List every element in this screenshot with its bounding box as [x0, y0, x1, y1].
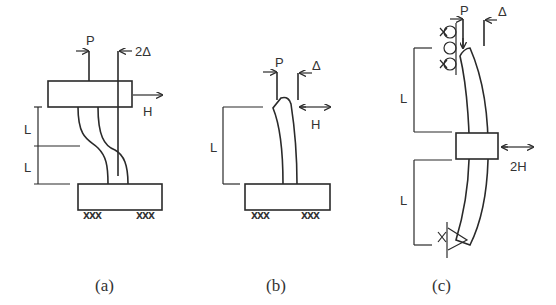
- dimension-lines: L: [210, 107, 263, 184]
- support-marks-left: XXX: [83, 211, 102, 221]
- displacement-label: 2Δ: [135, 44, 151, 59]
- length-upper-label: L: [24, 122, 31, 137]
- panel-a: P 2Δ H XXX XXX L L (a): [24, 33, 162, 295]
- panel-c: P Δ 2H L: [400, 3, 533, 295]
- force-2h-arrow: 2H: [502, 147, 533, 174]
- length-lower-label: L: [24, 160, 31, 175]
- support-marks-left: XXX: [251, 211, 270, 221]
- top-block: [48, 81, 132, 107]
- caption-b: (b): [266, 276, 286, 295]
- force-h-arrow: H: [133, 95, 162, 119]
- column-right-edge: [98, 107, 128, 184]
- force-h-arrow: H: [300, 107, 330, 132]
- dimension-lines: L L: [24, 107, 80, 184]
- displacement-arrow: Δ: [484, 4, 507, 46]
- base-block: [245, 184, 330, 210]
- displacement-label: Δ: [498, 4, 507, 19]
- mid-block: [456, 133, 498, 159]
- caption-c: (c): [432, 276, 451, 295]
- pin-support: [438, 222, 467, 258]
- load-p-arrow: P: [76, 33, 95, 81]
- length-upper-label: L: [400, 91, 407, 106]
- base-block: [78, 184, 162, 210]
- column-left-edge: [78, 107, 108, 184]
- force-2h-label: 2H: [510, 159, 527, 174]
- load-p-arrow: P: [263, 55, 284, 100]
- structural-diagram: P 2Δ H XXX XXX L L (a): [0, 0, 556, 305]
- displacement-arrow: Δ: [298, 58, 321, 100]
- roller-support: [440, 23, 456, 75]
- length-label: L: [210, 140, 217, 155]
- length-lower-label: L: [400, 193, 407, 208]
- support-marks-right: XXX: [136, 211, 155, 221]
- load-p-label: P: [460, 3, 469, 18]
- displacement-label: Δ: [312, 58, 321, 73]
- load-p-label: P: [275, 55, 284, 70]
- support-marks-right: XXX: [301, 211, 320, 221]
- load-p-arrow: P: [450, 3, 469, 48]
- caption-a: (a): [95, 276, 114, 295]
- dimension-lines: L L: [400, 48, 452, 245]
- panel-b: P Δ H XXX XXX L (b): [210, 55, 330, 295]
- force-h-label: H: [311, 117, 320, 132]
- column: [273, 97, 297, 184]
- force-h-label: H: [143, 104, 152, 119]
- load-p-label: P: [86, 33, 95, 48]
